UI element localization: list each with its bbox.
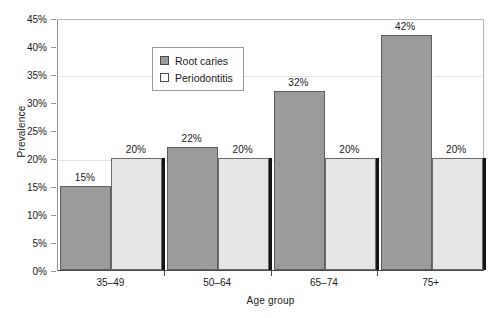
bar-periodontitis bbox=[218, 158, 269, 270]
x-axis-tick-label: 50–64 bbox=[203, 277, 231, 288]
legend-item-root-caries: Root caries bbox=[160, 52, 233, 69]
legend-swatch-icon bbox=[160, 56, 169, 65]
y-axis-tick-marks bbox=[0, 0, 57, 318]
y-axis-tick-mark bbox=[51, 75, 56, 76]
plot-area bbox=[57, 19, 484, 271]
bar-periodontitis bbox=[111, 158, 162, 270]
x-axis-tick-mark bbox=[271, 271, 272, 276]
y-axis-tick-mark bbox=[51, 103, 56, 104]
y-axis-tick-mark bbox=[51, 215, 56, 216]
x-axis-title: Age group bbox=[57, 295, 484, 306]
y-axis-tick-mark bbox=[51, 47, 56, 48]
bar-value-label: 15% bbox=[75, 172, 95, 183]
bar-value-label: 42% bbox=[395, 21, 415, 32]
bar-value-label: 32% bbox=[288, 77, 308, 88]
bar-periodontitis bbox=[432, 158, 483, 270]
bar-value-label: 20% bbox=[339, 144, 359, 155]
y-axis-tick-mark bbox=[51, 243, 56, 244]
bar-root-caries bbox=[167, 147, 218, 270]
legend-label: Root caries bbox=[175, 55, 228, 67]
x-axis-tick-label: 35–49 bbox=[96, 277, 124, 288]
y-axis-tick-mark bbox=[51, 159, 56, 160]
y-axis-tick-mark bbox=[51, 271, 56, 272]
y-axis-tick-mark bbox=[51, 131, 56, 132]
bar-periodontitis bbox=[325, 158, 376, 270]
x-axis-tick-mark bbox=[377, 271, 378, 276]
bar-root-caries bbox=[60, 186, 111, 270]
bar-root-caries bbox=[274, 91, 325, 270]
y-axis-tick-mark bbox=[51, 19, 56, 20]
bar-value-label: 20% bbox=[233, 144, 253, 155]
legend-label: Periodontitis bbox=[175, 72, 233, 84]
bar-value-label: 20% bbox=[126, 144, 146, 155]
bar-value-label: 20% bbox=[446, 144, 466, 155]
x-axis-tick-mark bbox=[164, 271, 165, 276]
chart-legend: Root caries Periodontitis bbox=[152, 47, 244, 91]
bar-chart-figure: Prevalence 0%5%10%15%20%25%30%35%40%45% … bbox=[0, 0, 495, 318]
x-axis-tick-label: 65–74 bbox=[310, 277, 338, 288]
x-axis-tick-label: 75+ bbox=[422, 277, 439, 288]
bar-root-caries bbox=[381, 35, 432, 270]
bar-series-layer bbox=[58, 20, 483, 270]
legend-swatch-icon bbox=[160, 73, 169, 82]
y-axis-tick-mark bbox=[51, 187, 56, 188]
bar-value-label: 22% bbox=[182, 133, 202, 144]
legend-item-periodontitis: Periodontitis bbox=[160, 69, 233, 86]
